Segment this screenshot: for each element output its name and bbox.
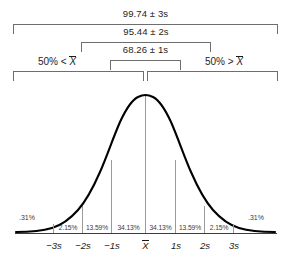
half-left-label: 50% < X	[38, 57, 76, 67]
bracket-3s-label: 99.74 ± 3s	[0, 9, 291, 19]
percent-band-mean-1s: 34.13%	[146, 225, 175, 232]
percent-band-right-tail: .31%	[248, 214, 264, 221]
tick-label-1s: 1s	[163, 241, 189, 251]
tick-label-3s: 3s	[221, 241, 247, 251]
sigma-gridlines	[54, 95, 234, 233]
half-left-mean-symbol: X	[69, 57, 76, 67]
bracket-2s-label: 95.44 ± 2s	[81, 27, 211, 37]
normal-distribution-figure: 99.74 ± 3s 95.44 ± 2s 68.26 ± 1s 50% < X…	[0, 0, 291, 260]
bracket-half-left-shape	[14, 72, 144, 82]
tick-label--1s: −1s	[99, 241, 125, 251]
half-right-percent: 50%	[205, 56, 225, 67]
percent-band--3s--2s: 2.15%	[54, 225, 82, 232]
bracket-1s-label: 68.26 ± 1s	[105, 45, 186, 55]
percent-band-1s-2s: 13.59%	[176, 225, 204, 232]
half-right-operator: >	[228, 56, 234, 67]
tick-label--3s: −3s	[41, 241, 67, 251]
tick-label-2s: 2s	[192, 241, 218, 251]
percent-band--1s-mean: 34.13%	[112, 225, 145, 232]
half-left-percent: 50%	[38, 56, 58, 67]
tick-label--2s: −2s	[70, 241, 96, 251]
half-right-mean-symbol: X	[236, 57, 243, 67]
half-right-label: 50% > X	[205, 57, 243, 67]
distribution-plot-svg	[0, 0, 291, 260]
percent-band-left-tail: .31%	[19, 214, 35, 221]
bracket-1s-shape	[111, 61, 181, 71]
tick-label-mean: X	[134, 241, 157, 251]
mean-symbol: X	[142, 241, 148, 251]
half-left-operator: <	[61, 56, 67, 67]
bracket-half-right-shape	[148, 72, 278, 82]
percent-band-2s-3s: 2.15%	[205, 225, 233, 232]
percent-band--2s--1s: 13.59%	[83, 225, 111, 232]
